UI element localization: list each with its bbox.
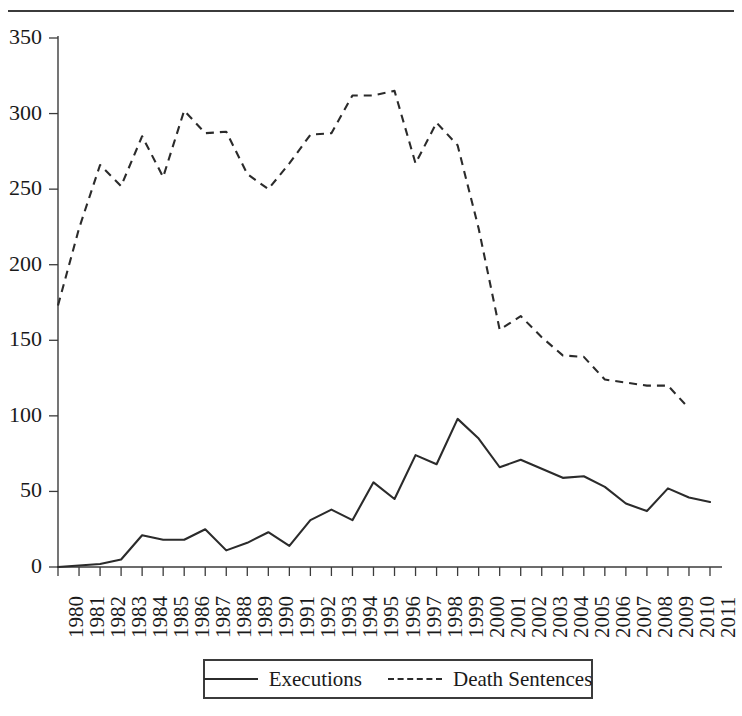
x-axis-tick-label: 2010 [697, 596, 718, 638]
x-axis-tick-label: 2011 [718, 597, 739, 638]
y-axis-ticks [49, 38, 58, 567]
chart-page: 050100150200250300350 198019811982198319… [0, 0, 742, 716]
x-axis-tick-label: 1985 [171, 596, 192, 638]
x-axis-tick-label: 2004 [571, 596, 592, 638]
x-axis-tick-label: 2001 [508, 596, 529, 638]
chart-plot-area: 050100150200250300350 198019811982198319… [0, 18, 742, 578]
legend-entry-death-sentences: Death Sentences [388, 667, 592, 692]
x-axis-tick-label: 2009 [676, 596, 697, 638]
line-chart-svg: 050100150200250300350 [0, 18, 742, 578]
x-axis-tick-label: 2002 [529, 596, 550, 638]
y-axis-tick-labels: 050100150200250300350 [9, 24, 42, 578]
x-axis-tick-label: 2007 [634, 596, 655, 638]
legend-entry-executions: Executions [204, 667, 362, 692]
legend-label-executions: Executions [269, 667, 362, 692]
legend-swatch-dashed-line [388, 678, 442, 680]
x-axis-tick-label: 1984 [150, 596, 171, 638]
x-axis-ticks [58, 567, 710, 576]
y-axis-tick-label: 350 [9, 24, 42, 49]
y-axis-tick-label: 0 [31, 553, 42, 578]
x-axis-tick-label: 1980 [66, 596, 87, 638]
y-axis-tick-label: 250 [9, 175, 42, 200]
x-axis-tick-label: 1997 [424, 596, 445, 638]
top-horizontal-rule [8, 10, 734, 12]
y-axis-tick-label: 150 [9, 326, 42, 351]
x-axis-tick-label: 1982 [108, 596, 129, 638]
y-axis-tick-label: 300 [9, 100, 42, 125]
x-axis-tick-label: 1999 [466, 596, 487, 638]
y-axis-tick-label: 200 [9, 251, 42, 276]
chart-legend: Executions Death Sentences [203, 659, 593, 699]
y-axis-tick-label: 50 [20, 477, 42, 502]
x-axis-tick-label: 1981 [87, 596, 108, 638]
x-axis-tick-label: 1983 [129, 596, 150, 638]
x-axis-tick-label: 1995 [381, 596, 402, 638]
series-line-death-sentences [58, 91, 689, 408]
x-axis-tick-label: 2003 [550, 596, 571, 638]
x-axis-tick-label: 2006 [613, 596, 634, 638]
x-axis-tick-label: 2008 [655, 596, 676, 638]
x-axis-tick-label: 1998 [445, 596, 466, 638]
y-axis-tick-label: 100 [9, 402, 42, 427]
x-axis-tick-label: 1996 [403, 596, 424, 638]
series-line-executions [58, 419, 710, 567]
legend-swatch-solid-line [204, 678, 258, 680]
x-axis-tick-label: 2000 [487, 596, 508, 638]
legend-label-death-sentences: Death Sentences [453, 667, 592, 692]
x-axis-tick-label: 2005 [592, 596, 613, 638]
